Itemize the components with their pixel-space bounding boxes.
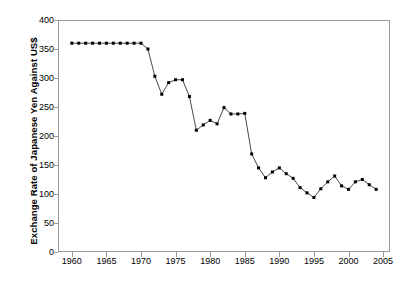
y-axis-tick-mark: [53, 194, 58, 195]
y-axis-tick-mark: [53, 20, 58, 21]
x-axis-tick-mark: [176, 252, 177, 257]
x-axis-tick-mark: [383, 252, 384, 257]
y-axis-tick-mark: [53, 136, 58, 137]
y-axis-tick-mark: [53, 78, 58, 79]
x-axis-tick-mark: [72, 252, 73, 257]
x-axis-tick-mark: [279, 252, 280, 257]
y-axis-tick-mark: [53, 223, 58, 224]
chart-container: Exchange Rate of Japanese Yen Against US…: [0, 0, 406, 282]
y-axis-tick-mark: [53, 107, 58, 108]
x-axis-tick-mark: [349, 252, 350, 257]
x-axis-tick-label: 2005: [363, 256, 403, 266]
y-axis-tick-mark: [53, 165, 58, 166]
x-axis-tick-mark: [141, 252, 142, 257]
x-axis-tick-mark: [106, 252, 107, 257]
x-axis-tick-mark: [210, 252, 211, 257]
x-axis-tick-mark: [314, 252, 315, 257]
y-axis-tick-mark: [53, 252, 58, 253]
x-axis-tick-labels: 1960196519701975198019851990199520002005: [0, 0, 406, 282]
x-axis-tick-mark: [245, 252, 246, 257]
y-axis-tick-mark: [53, 49, 58, 50]
